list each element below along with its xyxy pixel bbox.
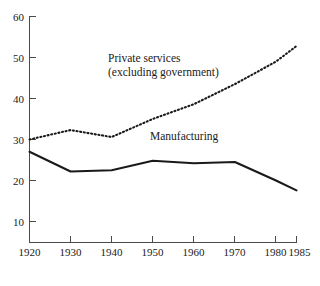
- x-axis-ticks: [30, 236, 297, 243]
- annotation-private-services-line2: (excluding government): [108, 66, 219, 79]
- x-label-1960: 1960: [183, 246, 206, 258]
- y-axis-labels: 60 50 40 30 20 10: [13, 11, 25, 228]
- x-label-1980: 1980: [265, 246, 288, 258]
- x-label-1920: 1920: [19, 246, 42, 258]
- y-label-40: 40: [13, 93, 25, 105]
- annotation-manufacturing-line1: Manufacturing: [150, 130, 219, 143]
- x-label-1950: 1950: [142, 246, 165, 258]
- annotation-private-services: Private services (excluding government): [108, 52, 219, 79]
- line-chart: 60 50 40 30 20 10 1920 1930 1940 1950 19…: [0, 0, 320, 286]
- y-label-30: 30: [13, 134, 25, 146]
- x-label-1970: 1970: [224, 246, 247, 258]
- annotation-manufacturing: Manufacturing: [150, 130, 219, 143]
- y-label-60: 60: [13, 11, 25, 23]
- series-line-manufacturing: [30, 152, 297, 191]
- x-label-1940: 1940: [101, 246, 124, 258]
- x-label-1930: 1930: [60, 246, 83, 258]
- y-label-10: 10: [13, 216, 25, 228]
- annotation-private-services-line1: Private services: [108, 52, 181, 64]
- y-axis-ticks: [30, 17, 37, 222]
- chart-canvas: 60 50 40 30 20 10 1920 1930 1940 1950 19…: [0, 0, 320, 286]
- y-label-20: 20: [13, 175, 25, 187]
- y-label-50: 50: [13, 52, 25, 64]
- x-axis-labels: 1920 1930 1940 1950 1960 1970 1980 1985: [19, 246, 312, 258]
- x-label-1985: 1985: [289, 246, 312, 258]
